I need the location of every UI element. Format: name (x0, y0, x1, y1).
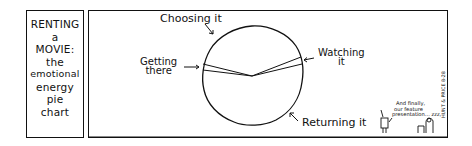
label-returning-it: Returning it (302, 118, 366, 127)
label-getting-there: Getting there (140, 57, 177, 75)
slice-divider (203, 70, 252, 76)
caption-line: presentation... zzz, (392, 112, 441, 118)
pie-chart (0, 0, 472, 146)
label-watching-it: Watching it (318, 48, 365, 66)
label-choosing-it: Choosing it (160, 14, 222, 23)
label-line: there (140, 66, 177, 75)
label-line: it (318, 57, 365, 66)
caption-bubble: And finally, our feature presentation...… (392, 101, 441, 118)
arrow-choosing (205, 24, 213, 34)
arrow-returning (290, 113, 298, 121)
figure-sleeping (418, 118, 433, 133)
signature: HUNT & PRICE 8-28 (441, 71, 446, 118)
arrow-getting (184, 65, 199, 69)
figure-presenter (381, 110, 392, 133)
slice-divider (203, 64, 252, 76)
arrow-watching (304, 58, 314, 63)
